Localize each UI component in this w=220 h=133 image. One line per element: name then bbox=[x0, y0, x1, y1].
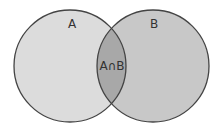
venn-diagram: A B A∩B bbox=[0, 0, 220, 133]
intersection-label: A∩B bbox=[99, 59, 124, 73]
set-a-label: A bbox=[68, 17, 77, 31]
set-b-label: B bbox=[150, 17, 158, 31]
